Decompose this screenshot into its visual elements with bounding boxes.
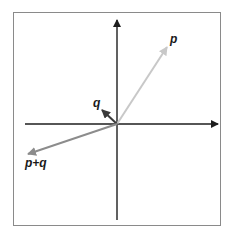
vector-p-plus-q-arrow	[28, 124, 117, 154]
vector-q-arrow	[102, 110, 117, 124]
label-q: q	[93, 97, 100, 109]
vector-diagram	[0, 0, 233, 236]
label-p: p	[170, 33, 177, 45]
vector-p-arrow	[117, 47, 167, 124]
label-p-plus-q: p+q	[25, 157, 47, 169]
